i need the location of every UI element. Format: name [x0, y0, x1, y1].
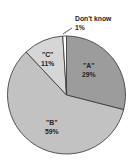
slice-a-value: 29% [82, 70, 96, 79]
slice-b-value: 59% [45, 127, 59, 136]
slice-label-a: "A" 29% [82, 61, 96, 79]
slice-label-b: "B" 59% [45, 118, 59, 136]
dont-know-value: 1% [75, 23, 111, 32]
annotation-dont-know: Don't know 1% [75, 14, 111, 32]
slice-c-value: 11% [41, 59, 54, 68]
slice-c-name: "C" [41, 50, 54, 59]
slice-a-name: "A" [82, 61, 96, 70]
leader-line [63, 28, 72, 34]
slice-label-c: "C" 11% [41, 50, 54, 68]
slice-b-name: "B" [45, 118, 59, 127]
pie-chart [0, 0, 133, 164]
dont-know-name: Don't know [75, 14, 111, 23]
